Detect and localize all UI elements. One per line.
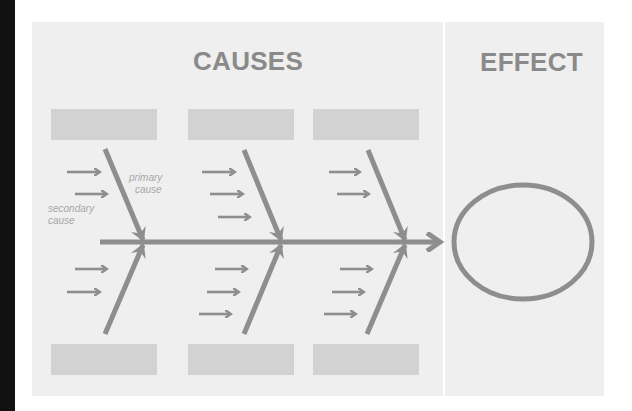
primary-branches-bottom bbox=[105, 245, 405, 334]
fishbone-diagram bbox=[0, 0, 632, 411]
effect-ellipse bbox=[454, 185, 592, 299]
